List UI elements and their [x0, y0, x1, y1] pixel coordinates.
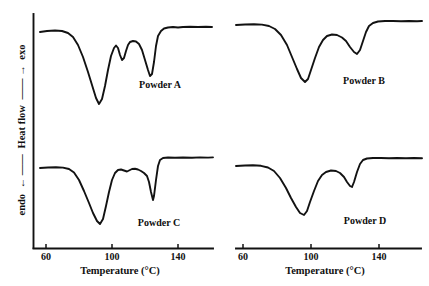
series-label-powder-c: Powder C: [138, 217, 180, 228]
x-axis-title-right: Temperature (°C): [285, 265, 365, 277]
x-ticklabel-right-100: 100: [304, 251, 319, 262]
curve-powder-a: [40, 27, 212, 104]
x-axis-title-left: Temperature (°C): [80, 265, 160, 277]
y-axis-label-endo: endo: [16, 194, 27, 216]
x-ticklabel-left-100: 100: [105, 251, 120, 262]
curve-powder-d: [236, 158, 422, 215]
x-ticklabel-left-60: 60: [41, 251, 51, 262]
series-label-powder-b: Powder B: [343, 75, 385, 86]
curve-powder-c: [40, 157, 213, 224]
figure-canvas: 60 100 140 Temperature (°C) 60 100 140 T…: [0, 0, 429, 286]
y-axis-label-group: endo ← —— Heat flow —— → exo: [16, 45, 27, 216]
y-axis-label-middle: Heat flow: [16, 105, 27, 149]
x-ticklabel-right-140: 140: [372, 251, 387, 262]
series-label-powder-d: Powder D: [344, 215, 386, 226]
curve-powder-b: [236, 21, 422, 82]
y-axis-label: endo ← —— Heat flow —— → exo: [16, 45, 27, 216]
x-ticklabel-left-140: 140: [171, 251, 186, 262]
y-axis-label-exo: exo: [16, 45, 27, 60]
series-label-powder-a: Powder A: [139, 79, 182, 90]
x-ticklabel-right-60: 60: [238, 251, 248, 262]
dsc-thermogram-figure: 60 100 140 Temperature (°C) 60 100 140 T…: [0, 0, 429, 286]
